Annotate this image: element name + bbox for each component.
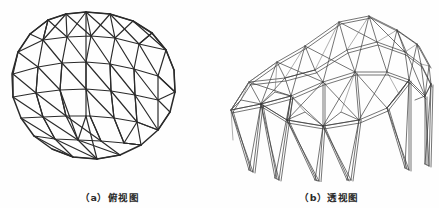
plan-view-caption: （a）俯视图: [0, 192, 219, 204]
deck-lower-grid: [261, 72, 410, 129]
panel-perspective-view: （b）透视图: [219, 0, 439, 208]
leg-center-left: [287, 120, 325, 182]
leg-center-right: [323, 120, 361, 181]
perspective-view-caption: （b）透视图: [219, 192, 439, 204]
plan-view-drawing: [0, 0, 219, 182]
leg-left-outer: [231, 104, 263, 173]
roof-upper-chords: [231, 16, 432, 113]
leg-left-inner: [261, 96, 293, 181]
plan-grid-edge-chords: [36, 12, 152, 159]
figure-root: （a）俯视图: [0, 0, 439, 208]
leg-right-outer: [425, 84, 433, 167]
panel-plan-view: （a）俯视图: [0, 0, 219, 208]
roof-diagonal-bracing: [231, 16, 431, 110]
perspective-view-drawing: [219, 0, 439, 182]
